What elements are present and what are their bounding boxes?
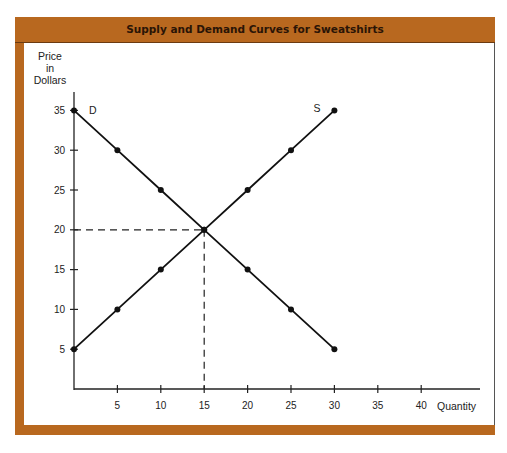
x-axis-label: Quantity [437,400,477,412]
x-tick-label: 30 [329,400,341,411]
axis-labels: 5101520253035405101520253035PriceinDolla… [34,50,477,412]
axes [70,92,480,393]
x-tick-label: 5 [115,400,121,411]
y-tick-label: 30 [54,145,66,156]
data-point [245,267,251,273]
y-axis-label: Dollars [34,74,67,86]
y-axis-label: in [46,62,54,74]
y-tick-label: 15 [54,264,66,275]
y-tick-label: 10 [54,304,66,315]
data-point [288,306,294,312]
supply-label: S [313,102,320,114]
data-point [201,227,207,233]
data-point [114,147,120,153]
data-point [288,147,294,153]
y-tick-label: 35 [54,105,66,116]
y-tick-label: 5 [59,344,65,355]
data-point [71,346,77,352]
x-tick-label: 15 [199,400,211,411]
x-tick-label: 20 [242,400,254,411]
data-point [71,107,77,113]
y-axis-label: Price [38,50,62,62]
chart-plot: 5101520253035405101520253035PriceinDolla… [0,0,507,453]
data-point [158,187,164,193]
data-point [331,346,337,352]
y-tick-label: 25 [54,185,66,196]
data-point [114,306,120,312]
data-point [245,187,251,193]
x-tick-label: 35 [372,400,384,411]
x-tick-label: 10 [155,400,167,411]
y-tick-label: 20 [54,224,66,235]
equilibrium-guides [74,230,204,389]
data-point [158,267,164,273]
data-point [331,107,337,113]
demand-label: D [89,104,97,116]
x-tick-label: 40 [416,400,428,411]
x-tick-label: 25 [285,400,297,411]
